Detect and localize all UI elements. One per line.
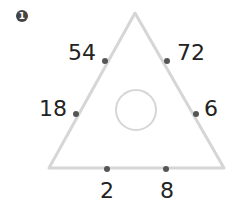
label-bottom-left: 2 xyxy=(100,180,114,202)
dot-top-left xyxy=(102,58,108,64)
triangle-diagram xyxy=(0,0,233,207)
label-mid-left: 18 xyxy=(39,98,67,120)
center-answer-circle[interactable] xyxy=(116,90,156,130)
dot-mid-left xyxy=(73,111,79,117)
label-bottom-right: 8 xyxy=(160,180,174,202)
label-top-right: 72 xyxy=(177,42,205,64)
dot-bottom-right xyxy=(163,166,169,172)
label-mid-right: 6 xyxy=(204,98,218,120)
dot-top-right xyxy=(164,58,170,64)
dot-bottom-left xyxy=(104,166,110,172)
label-top-left: 54 xyxy=(68,42,96,64)
dot-mid-right xyxy=(193,111,199,117)
